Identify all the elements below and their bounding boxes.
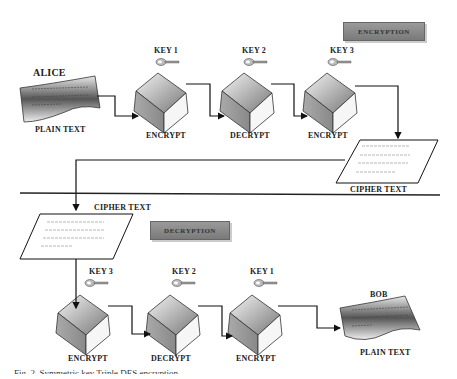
decrypt-box-2 [220,73,274,133]
bob-plain-text-document [340,296,420,340]
key-icon [328,59,351,66]
key-icon [244,59,267,66]
encrypt-box-3 [303,73,357,133]
key-label: KEY 3 [89,267,113,276]
op-label: DECRYPT [230,131,270,140]
cipher-text-document-top [336,140,438,183]
plain-text-label: PLAIN TEXT [360,348,411,357]
op-label: ENCRYPT [146,131,186,140]
key-label: KEY 3 [330,46,354,55]
cipher-text-label: CIPHER TEXT [350,185,407,194]
encrypt-box-key3 [56,295,110,355]
decryption-banner: DECRYPTION [150,221,230,240]
key-icon [85,280,108,287]
decrypt-box-key2 [146,295,200,355]
key-icon [254,280,277,287]
key-label: KEY 2 [172,267,196,276]
op-label: ENCRYPT [68,354,108,363]
key-label: KEY 2 [242,46,266,55]
sender-label: ALICE [33,67,66,78]
encrypt-box-1 [134,73,188,133]
alice-plain-text-document [20,76,100,122]
receiver-label: BOB [370,290,388,299]
cipher-text-document-bottom [20,214,133,259]
key-icon [156,59,179,66]
plain-text-label: PLAIN TEXT [35,125,86,134]
encryption-banner: ENCRYPTION [343,22,425,41]
encrypt-box-key1 [228,295,282,355]
key-label: KEY 1 [154,46,178,55]
op-label: ENCRYPT [308,131,348,140]
key-label: KEY 1 [250,267,274,276]
op-label: ENCRYPT [236,354,276,363]
cipher-text-label: CIPHER TEXT [94,203,151,212]
op-label: DECRYPT [151,354,191,363]
key-icon [172,280,195,287]
